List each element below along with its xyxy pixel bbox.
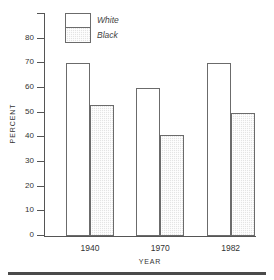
bar-1940-white — [66, 63, 90, 236]
y-tick: 20 — [37, 186, 45, 187]
white-swatch — [65, 13, 91, 28]
bottom-divider-rule — [8, 272, 266, 275]
plot-area: 01020304050607080 — [44, 14, 256, 237]
y-tick-label: 50 — [25, 107, 34, 116]
x-tick-label-1970: 1970 — [140, 243, 180, 253]
y-tick: 10 — [37, 210, 45, 211]
legend-entry-black: Black — [65, 28, 135, 43]
bar-1982-white — [207, 63, 231, 236]
x-tick-label-1940: 1940 — [70, 243, 110, 253]
y-tick-label: 40 — [25, 131, 34, 140]
black-hatched-swatch — [65, 28, 91, 43]
y-tick-label: 70 — [25, 57, 34, 66]
y-tick-label: 60 — [25, 82, 34, 91]
y-tick: 30 — [37, 161, 45, 162]
y-tick-label: 80 — [25, 33, 34, 42]
y-tick — [37, 13, 45, 14]
bar-1940-black — [90, 105, 114, 236]
x-axis-line — [44, 236, 256, 237]
y-tick: 50 — [37, 112, 45, 113]
y-tick-label: 10 — [25, 205, 34, 214]
y-tick-label: 30 — [25, 156, 34, 165]
legend-entry-white: White — [65, 13, 135, 28]
bar-1970-black — [160, 135, 184, 236]
chart-legend: WhiteBlack — [65, 13, 135, 44]
y-tick-label: 20 — [25, 181, 34, 190]
bar-group-container — [45, 14, 256, 236]
y-tick: 80 — [37, 38, 45, 39]
legend-label: Black — [97, 30, 118, 40]
x-tick-label-1982: 1982 — [211, 243, 251, 253]
x-axis-title: YEAR — [44, 258, 256, 265]
y-tick-label: 0 — [30, 230, 34, 239]
y-tick: 60 — [37, 87, 45, 88]
y-tick: 40 — [37, 136, 45, 137]
y-axis-title: PERCENT — [9, 89, 16, 159]
y-tick: 70 — [37, 62, 45, 63]
bar-1970-white — [136, 88, 160, 236]
bar-1982-black — [231, 113, 255, 236]
legend-label: White — [97, 15, 119, 25]
bar-chart-figure: PERCENT 01020304050607080 194019701982 Y… — [0, 0, 274, 280]
y-tick: 0 — [37, 235, 45, 236]
